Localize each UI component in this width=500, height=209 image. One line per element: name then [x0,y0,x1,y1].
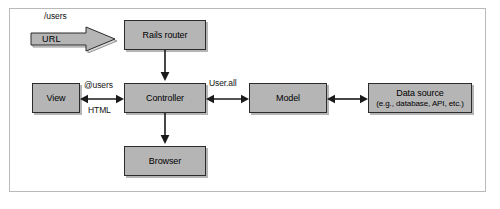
edge-label-controller-to-view: HTML [88,105,111,115]
edge-controller-model [206,92,249,106]
node-rails-router-label: Rails router [143,30,188,40]
node-view-label: View [47,93,66,103]
node-browser: Browser [124,146,206,176]
edge-label-controller-to-model: User.all [209,78,237,88]
edge-label-request-path: /users [44,11,67,21]
edge-model-datasource [327,92,368,106]
url-block-arrow: URL [28,25,118,53]
node-model-label: Model [276,93,300,103]
node-rails-router: Rails router [124,20,206,50]
node-data-source-label: Data source [396,88,443,98]
node-data-source: Data source (e.g., database, API, etc.) [368,83,472,113]
node-controller: Controller [124,83,206,113]
edge-controller-to-browser [157,113,173,145]
node-view: View [32,83,80,113]
url-arrow-label: URL [28,25,118,53]
node-browser-label: Browser [149,156,181,166]
edge-router-to-controller [157,50,173,82]
edge-view-controller [80,92,124,106]
edge-label-view-to-controller: @users [84,80,113,90]
node-data-source-sublabel: (e.g., database, API, etc.) [376,99,464,108]
diagram-canvas: /users URL Rails router View Controller … [0,0,500,209]
node-controller-label: Controller [146,93,184,103]
node-model: Model [249,83,327,113]
